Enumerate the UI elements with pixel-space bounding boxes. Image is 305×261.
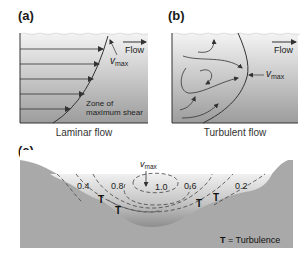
turbulence-marker: T bbox=[196, 198, 202, 209]
isovel-label-0.8: 0.8 bbox=[111, 181, 124, 191]
turbulence-marker: T bbox=[115, 205, 121, 216]
zone-label-line1: Zone of bbox=[86, 99, 114, 108]
isovel-label-0.4: 0.4 bbox=[77, 181, 90, 191]
isovel-label-0.2: 0.2 bbox=[235, 181, 248, 191]
isovel-label-1.0: 1.0 bbox=[155, 182, 168, 192]
panel-b-turbulent: Flow vmax bbox=[172, 33, 300, 123]
flow-label: Flow bbox=[274, 45, 294, 55]
panel-a-laminar: Flow vmax Zone of maximum shear bbox=[20, 33, 148, 123]
diagram-canvas: Flow vmax Zone of maximum shear Flow vma… bbox=[0, 0, 305, 261]
isovel-label-0.6: 0.6 bbox=[184, 181, 197, 191]
turbulence-legend: T = Turbulence bbox=[220, 235, 280, 245]
flow-label: Flow bbox=[125, 45, 145, 55]
zone-label-line2: maximum shear bbox=[86, 108, 143, 117]
turbulence-marker: T bbox=[213, 192, 219, 203]
panel-c-cross-section: vmax 0.4 0.8 1.0 0.6 0.2 T T T T T = Tur… bbox=[20, 150, 293, 248]
turbulence-marker: T bbox=[98, 194, 104, 205]
